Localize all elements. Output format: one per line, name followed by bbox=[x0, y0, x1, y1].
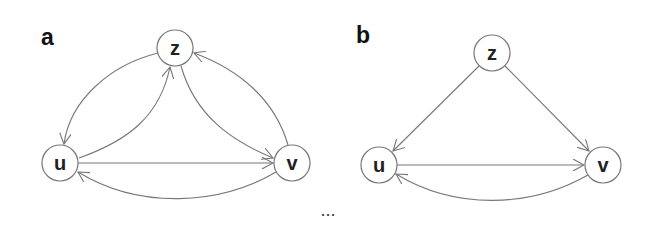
panel-a: a z u v bbox=[41, 24, 310, 199]
edge-a-z-to-u bbox=[64, 53, 158, 144]
edge-a-v-to-z bbox=[194, 53, 288, 145]
node-b-z: z bbox=[474, 35, 510, 71]
node-a-u-label: u bbox=[54, 152, 66, 174]
node-b-v-label: v bbox=[597, 154, 609, 176]
ellipsis: ... bbox=[320, 200, 335, 220]
node-b-z-label: z bbox=[487, 42, 497, 64]
node-b-u: u bbox=[361, 147, 397, 183]
node-a-z: z bbox=[157, 30, 193, 66]
edge-a-z-to-v bbox=[181, 66, 273, 158]
edge-b-z-to-v bbox=[505, 66, 589, 151]
edge-b-z-to-u bbox=[393, 66, 479, 151]
node-a-u: u bbox=[42, 145, 78, 181]
edge-a-u-to-z bbox=[79, 67, 170, 158]
node-a-v-label: v bbox=[286, 152, 298, 174]
panel-b-label: b bbox=[356, 22, 370, 48]
panel-a-label: a bbox=[41, 24, 54, 50]
edge-a-v-to-u bbox=[78, 172, 276, 199]
node-a-z-label: z bbox=[170, 37, 180, 59]
node-b-u-label: u bbox=[373, 154, 385, 176]
node-b-v: v bbox=[585, 147, 621, 183]
causal-graph-figure: a z u v ... b bbox=[0, 0, 645, 227]
edge-b-v-to-u bbox=[396, 174, 588, 200]
node-a-v: v bbox=[274, 145, 310, 181]
panel-b: b z u v bbox=[356, 22, 621, 200]
